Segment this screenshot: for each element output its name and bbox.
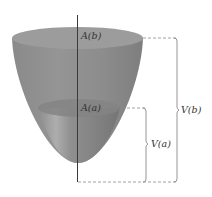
volume-mid-label: V(a) xyxy=(151,138,171,149)
middle-cross-section xyxy=(38,99,120,117)
area-top-label: A(b) xyxy=(80,30,102,41)
volume-top-bracket xyxy=(174,38,179,182)
volume-top-label: V(b) xyxy=(181,104,202,115)
area-mid-label: A(a) xyxy=(80,102,101,113)
volume-mid-bracket xyxy=(143,108,148,182)
paraboloid-diagram: A(b) A(a) V(a) V(b) xyxy=(0,0,212,197)
